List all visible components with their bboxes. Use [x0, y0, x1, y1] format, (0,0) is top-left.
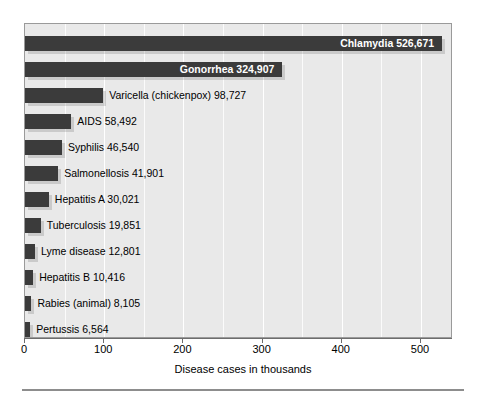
bar-label: Hepatitis A 30,021 — [55, 192, 140, 207]
bar-hepatitis-a — [25, 192, 49, 207]
bar-label: Pertussis 6,564 — [36, 322, 108, 337]
footer-rule — [22, 389, 464, 391]
bar-label: Lyme disease 12,801 — [41, 244, 140, 259]
x-axis-title: Disease cases in thousands — [0, 363, 486, 375]
x-tick-label-400: 400 — [332, 343, 350, 355]
bar-chart-figure: Chlamydia 526,671Gonorrhea 324,907Varice… — [0, 0, 486, 398]
x-tick-label-500: 500 — [411, 343, 429, 355]
bar-salmonellosis — [25, 166, 58, 181]
bar-row: Gonorrhea 324,907 — [25, 62, 451, 77]
bar-row: Salmonellosis 41,901 — [25, 166, 451, 181]
bar-label: Hepatitis B 10,416 — [39, 270, 125, 285]
bar-row: Pertussis 6,564 — [25, 322, 451, 337]
bar-row: Syphilis 46,540 — [25, 140, 451, 155]
bar-varicella-chickenpox — [25, 88, 103, 103]
bar-tuberculosis — [25, 218, 41, 233]
x-tick-label-0: 0 — [21, 343, 27, 355]
bar-label: Syphilis 46,540 — [68, 140, 139, 155]
x-tick-label-200: 200 — [173, 343, 191, 355]
bar-row: Hepatitis B 10,416 — [25, 270, 451, 285]
bar-label: Gonorrhea 324,907 — [25, 62, 274, 77]
bar-row: AIDS 58,492 — [25, 114, 451, 129]
bar-aids — [25, 114, 71, 129]
bar-pertussis — [25, 322, 30, 337]
x-tick-label-300: 300 — [252, 343, 270, 355]
x-tick-label-100: 100 — [94, 343, 112, 355]
bar-row: Chlamydia 526,671 — [25, 36, 451, 51]
bar-hepatitis-b — [25, 270, 33, 285]
bar-row: Rabies (animal) 8,105 — [25, 296, 451, 311]
bar-label: Chlamydia 526,671 — [25, 36, 434, 51]
plot-area: Chlamydia 526,671Gonorrhea 324,907Varice… — [24, 23, 452, 338]
bar-row: Varicella (chickenpox) 98,727 — [25, 88, 451, 103]
bar-label: Varicella (chickenpox) 98,727 — [109, 88, 246, 103]
bar-label: Rabies (animal) 8,105 — [37, 296, 140, 311]
bar-label: AIDS 58,492 — [77, 114, 137, 129]
bar-row: Lyme disease 12,801 — [25, 244, 451, 259]
bar-rabies-animal — [25, 296, 31, 311]
bar-syphilis — [25, 140, 62, 155]
bar-row: Hepatitis A 30,021 — [25, 192, 451, 207]
bar-label: Salmonellosis 41,901 — [64, 166, 164, 181]
bar-row: Tuberculosis 19,851 — [25, 218, 451, 233]
bar-lyme-disease — [25, 244, 35, 259]
x-axis-line — [24, 338, 452, 339]
bar-label: Tuberculosis 19,851 — [47, 218, 141, 233]
